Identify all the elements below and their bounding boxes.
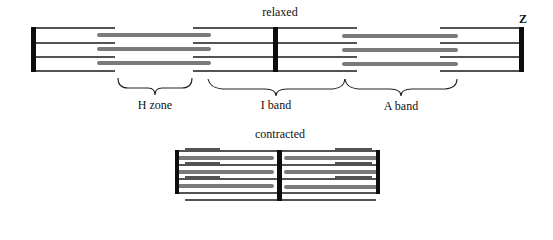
a-band-label: A band: [384, 99, 418, 114]
region-braces: [118, 78, 457, 96]
contracted-title: contracted: [255, 127, 305, 142]
i-band-label: I band: [261, 98, 291, 113]
relaxed-sarcomere: [31, 27, 524, 96]
h-zone-label: H zone: [138, 98, 172, 113]
contracted-sarcomere: [175, 149, 380, 201]
